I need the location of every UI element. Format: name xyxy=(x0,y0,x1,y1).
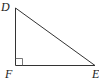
triangle-diagram: D F E xyxy=(0,0,99,79)
vertex-label-E: E xyxy=(91,67,99,79)
segment-DE xyxy=(16,8,96,66)
vertex-label-D: D xyxy=(0,0,10,14)
right-angle-marker xyxy=(16,59,23,66)
vertex-label-F: F xyxy=(4,67,13,79)
